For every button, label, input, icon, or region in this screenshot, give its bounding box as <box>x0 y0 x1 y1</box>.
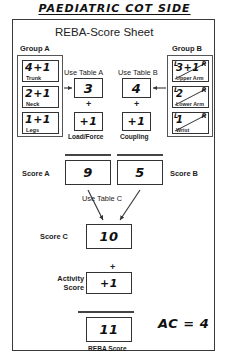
group-b-cell-lower-arm[interactable]: L R 2 Lower Arm <box>172 86 209 108</box>
score-b-box[interactable]: 5 <box>117 160 163 185</box>
table-b-result-box[interactable]: 4 <box>122 78 151 98</box>
neck-value: 2+1 <box>25 87 51 100</box>
legs-value: 1+1 <box>25 113 51 126</box>
score-a-label: Score A <box>22 169 50 178</box>
group-b-cell-upper-arm[interactable]: L R 3+1 Upper Arm <box>172 60 209 82</box>
score-b-double-rule <box>117 154 163 156</box>
lower-arm-value: 2 <box>176 88 183 100</box>
wrist-value: 1 <box>176 114 183 126</box>
score-c-label: Score C <box>40 232 68 241</box>
upper-arm-right-marker: R <box>201 60 207 68</box>
group-b-container: L R 3+1 Upper Arm L R 2 Lower Arm L R 1 … <box>167 55 213 137</box>
table-a-result-box[interactable]: 3 <box>74 78 103 98</box>
group-b-plus-sign: + <box>134 99 139 109</box>
group-b-cell-wrist[interactable]: L R 1 Wrist <box>172 112 209 134</box>
score-c-value: 10 <box>99 230 118 243</box>
score-c-box[interactable]: 10 <box>86 224 132 249</box>
upper-arm-label: Upper Arm <box>176 75 204 81</box>
reba-score-box[interactable]: 11 <box>86 317 132 342</box>
activity-label-line1: Activity <box>57 274 84 283</box>
group-a-label: Group A <box>20 44 50 53</box>
reba-score-label: REBA Score <box>88 345 127 352</box>
score-a-double-rule <box>65 154 111 156</box>
group-a-container: 4+1 Trunk 2+1 Neck 1+1 Legs <box>17 55 63 137</box>
group-a-cell-trunk[interactable]: 4+1 Trunk <box>22 60 59 82</box>
wrist-right-marker: R <box>201 112 207 120</box>
activity-score-box[interactable]: +1 <box>86 272 132 294</box>
load-force-label: Load/Force <box>68 133 104 140</box>
legs-label: Legs <box>26 127 39 133</box>
reba-score-value: 11 <box>99 323 118 336</box>
trunk-label: Trunk <box>26 75 41 81</box>
lower-arm-right-marker: R <box>201 86 207 94</box>
reba-score-double-rule <box>78 311 134 313</box>
sheet-title: REBA-Score Sheet <box>55 26 153 38</box>
load-force-box[interactable]: +1 <box>74 112 103 131</box>
group-a-plus-sign: + <box>86 99 91 109</box>
use-table-a-label: Use Table A <box>64 68 103 77</box>
coupling-box[interactable]: +1 <box>122 112 151 131</box>
score-a-value: 9 <box>83 166 93 179</box>
coupling-value: +1 <box>128 115 146 128</box>
handwritten-page-title: PAEDIATRIC COT SIDE <box>0 2 229 15</box>
group-a-cell-neck[interactable]: 2+1 Neck <box>22 86 59 108</box>
activity-label-line2: Score <box>63 283 84 292</box>
lower-arm-label: Lower Arm <box>176 101 204 107</box>
score-b-label: Score B <box>170 169 198 178</box>
activity-score-label: Activity Score <box>40 274 84 292</box>
coupling-label: Coupling <box>120 133 149 140</box>
table-a-result-value: 3 <box>84 82 94 95</box>
trunk-value: 4+1 <box>25 61 51 74</box>
load-force-value: +1 <box>80 115 98 128</box>
score-a-box[interactable]: 9 <box>65 160 111 185</box>
action-category-annotation: AC = 4 <box>158 316 209 331</box>
neck-label: Neck <box>26 101 39 107</box>
table-b-result-value: 4 <box>132 82 142 95</box>
use-table-c-label: Use Table C <box>82 194 122 203</box>
group-a-cell-legs[interactable]: 1+1 Legs <box>22 112 59 134</box>
score-b-value: 5 <box>135 166 145 179</box>
wrist-label: Wrist <box>176 127 189 133</box>
group-b-label: Group B <box>172 44 202 53</box>
upper-arm-value: 3+1 <box>176 62 200 74</box>
activity-plus-sign: + <box>110 262 115 272</box>
activity-score-value: +1 <box>100 277 118 290</box>
use-table-b-label: Use Table B <box>118 68 158 77</box>
